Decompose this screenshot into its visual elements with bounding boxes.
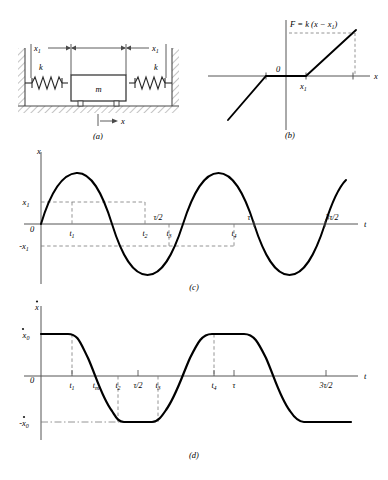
axis-label-x-panel-d: t <box>364 371 367 381</box>
coil-spring-right-icon <box>129 77 172 89</box>
panel-a: k k m x1 x1 <box>8 22 198 140</box>
dimension-arrow-middle <box>71 44 126 75</box>
coil-spring-left-icon <box>25 77 68 89</box>
hatched-wall-left-icon <box>18 48 25 106</box>
y-tick-label-x1: x1 <box>22 197 30 208</box>
force-equation-label: F = k (x − x1) <box>289 19 337 30</box>
gap-left-label: x1 <box>33 43 41 54</box>
dimension-arrow-right <box>126 44 166 78</box>
axis-label-x: x <box>373 71 378 81</box>
x-tick-label-t4-panel-d: t4 <box>211 381 216 391</box>
y-tick-label-neg-xdot0: -x0 <box>19 416 29 429</box>
origin-label: 0 <box>276 64 281 74</box>
breakpoint-label-x1: x1 <box>299 81 307 92</box>
hatched-ground-icon <box>18 106 179 113</box>
x-tick-label-tau-half-panel-d: τ/2 <box>133 381 142 390</box>
x-tick-label-tau-panel-d: τ <box>233 381 237 390</box>
axis-label-y-panel-c: x <box>36 146 41 156</box>
x-tick-label-three-tau-half: 3τ/2 <box>324 213 338 222</box>
panel-d-caption: (d) <box>189 450 199 460</box>
mass-label: m <box>95 84 101 94</box>
roller-wheel-icon <box>78 101 119 106</box>
axis-ticks <box>72 370 326 376</box>
force-curve <box>228 30 356 120</box>
dashed-guides <box>41 334 214 422</box>
x-tick-label-t1-panel-d: t1 <box>69 381 74 391</box>
axis-label-y-panel-d: x <box>34 300 39 312</box>
coordinate-label-x: x <box>120 116 125 126</box>
svg-text:x: x <box>34 302 39 312</box>
panel-a-caption: (a) <box>93 131 103 140</box>
axis-label-x-panel-c: t <box>364 219 367 229</box>
svg-text:-x0: -x0 <box>19 418 29 429</box>
panel-c: t x x1 0 -x1 t1 t2 τ/2 t3 t4 τ 3τ/2 (c <box>6 144 384 292</box>
y-tick-label-neg-x1: -x1 <box>19 241 29 252</box>
svg-text:x0: x0 <box>22 330 30 341</box>
y-tick-label-xdot0: x0 <box>22 328 30 341</box>
panel-b: F = k (x − x1) 0 x1 x (b) <box>198 8 386 140</box>
figure-root: k k m x1 x1 <box>0 0 388 480</box>
spring-left-label: k <box>39 62 43 72</box>
panel-d: t x x0 0 -x0 t1 tm t2 τ/2 t3 <box>6 298 384 476</box>
panel-c-caption-text: (c) <box>189 282 199 292</box>
panel-b-caption: (b) <box>285 130 295 140</box>
y-tick-label-zero: 0 <box>30 224 35 234</box>
x-tick-label-three-tau-half-panel-d: 3τ/2 <box>318 381 332 390</box>
gap-right-label: x1 <box>151 43 159 54</box>
velocity-curve <box>41 334 351 422</box>
hatched-wall-right-icon <box>172 48 179 106</box>
x-tick-label-tau-half: τ/2 <box>153 213 162 222</box>
coordinate-arrow-x <box>98 114 118 126</box>
x-tick-label-t2: t2 <box>142 229 147 239</box>
x-tick-label-t1: t1 <box>69 229 74 239</box>
spring-right-label: k <box>154 62 158 72</box>
